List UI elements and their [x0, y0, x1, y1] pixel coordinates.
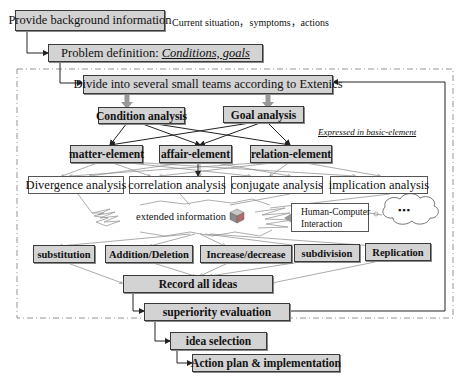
implication-analysis-box: implication analysis [330, 176, 428, 194]
extended-information-label: extended information [136, 211, 226, 222]
affair-element-label: affair-element [161, 148, 230, 160]
problem-definition-box: Problem definition: Conditions, goals [48, 44, 263, 62]
goal-analysis-box: Goal analysis [223, 106, 304, 123]
increase-decrease-box: Increase/decrease [200, 245, 292, 263]
idea-selection-label: idea selection [186, 335, 251, 347]
idea-selection-box: idea selection [170, 332, 267, 350]
divide-teams-box: Divide into several small teams accordin… [83, 75, 333, 94]
action-plan-box: Action plan & implementation [192, 354, 340, 372]
correlation-analysis-label: correlation analysis [128, 178, 226, 193]
hci-box: Human-Computer Interaction [291, 203, 369, 232]
replication-label: Replication [372, 247, 423, 258]
expressed-note: Expressed in basic-element [318, 127, 416, 137]
subdivision-box: subdivision [294, 244, 360, 262]
cloud-shape [383, 194, 439, 225]
problem-definition-prefix: Problem definition: [61, 46, 162, 61]
replication-box: Replication [365, 243, 431, 261]
problem-definition-emphasis: Conditions, goals [162, 46, 250, 61]
affair-element-box: affair-element [159, 145, 232, 163]
cube-icon [229, 208, 245, 224]
correlation-analysis-box: correlation analysis [129, 176, 225, 194]
superiority-evaluation-label: superiority evaluation [163, 306, 271, 318]
substitution-box: substitution [33, 245, 95, 263]
addition-deletion-box: Addition/Deletion [105, 245, 193, 263]
divide-teams-label: Divide into several small teams accordin… [73, 77, 342, 92]
increase-decrease-label: Increase/decrease [207, 249, 286, 260]
relation-element-label: relation-element [251, 148, 331, 160]
background-info-box: Provide background information [15, 10, 165, 31]
addition-deletion-label: Addition/Deletion [109, 249, 189, 260]
superiority-evaluation-box: superiority evaluation [144, 303, 290, 321]
conjugate-analysis-box: conjugate analysis [231, 176, 323, 194]
hci-label-line1: Human-Computer [301, 206, 370, 218]
subdivision-label: subdivision [302, 248, 353, 259]
hci-label-line2: Interaction [301, 218, 342, 230]
matter-element-box: matter-element [70, 145, 143, 163]
divergence-analysis-box: Divergence analysis [28, 176, 124, 194]
substitution-label: substitution [37, 249, 90, 260]
goal-analysis-label: Goal analysis [231, 109, 297, 121]
conjugate-analysis-label: conjugate analysis [231, 178, 323, 193]
background-info-label: Provide background information [8, 13, 171, 28]
relation-element-box: relation-element [250, 145, 332, 163]
condition-analysis-box: Condition analysis [98, 107, 185, 124]
implication-analysis-label: implication analysis [329, 178, 429, 193]
background-note: Current situation，symptoms，actions [172, 14, 329, 29]
record-ideas-box: Record all ideas [123, 275, 273, 293]
matter-element-label: matter-element [69, 148, 144, 160]
divergence-analysis-label: Divergence analysis [26, 178, 127, 193]
condition-analysis-label: Condition analysis [96, 110, 187, 122]
action-plan-label: Action plan & implementation [191, 357, 341, 369]
record-ideas-label: Record all ideas [159, 278, 238, 290]
cloud-ellipsis: ▪▪▪ [398, 205, 411, 215]
